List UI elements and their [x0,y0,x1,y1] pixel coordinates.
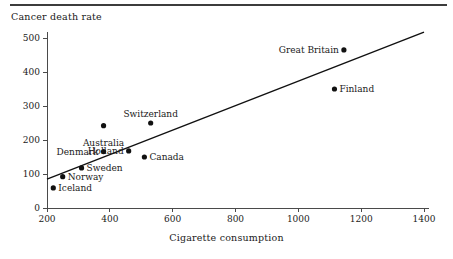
axes-group [43,32,429,212]
data-point [60,174,65,179]
point-label: Norway [68,172,105,182]
data-point [126,148,131,153]
data-point [142,154,147,159]
x-tick-label: 600 [164,214,181,224]
x-tick-label: 400 [101,214,118,224]
x-tick-label: 1200 [350,214,373,224]
point-label: Iceland [58,183,92,193]
y-tick-label: 100 [23,169,40,179]
x-tick-label: 1000 [287,214,310,224]
data-points-group: IcelandNorwaySwedenDenmarkAustraliaHolla… [51,45,375,193]
y-tick-label: 300 [23,101,40,111]
y-tick-label: 500 [23,33,40,43]
regression-line [47,32,424,179]
y-tick-label: 400 [23,67,40,77]
data-point [332,86,337,91]
y-tick-label: 200 [23,135,40,145]
point-label: Finland [339,84,374,94]
figure-container: Cancer death rate IcelandNorwaySwedenDen… [0,0,453,259]
data-point [341,47,346,52]
point-label: Holland [88,146,124,156]
data-point [79,165,84,170]
tick-labels-group: 0100200300400500200400600800100012001400 [23,33,436,224]
data-point [148,120,153,125]
x-tick-label: 1400 [413,214,436,224]
y-tick-label: 0 [34,203,40,213]
regression-line-group [47,32,424,179]
point-label: Canada [149,152,184,162]
scatter-plot: IcelandNorwaySwedenDenmarkAustraliaHolla… [0,0,453,259]
x-tick-label: 200 [38,214,55,224]
data-point [101,123,106,128]
point-label: Switzerland [123,109,178,119]
point-label: Sweden [87,163,123,173]
x-axis-title: Cigarette consumption [0,232,453,243]
x-tick-label: 800 [227,214,244,224]
point-label: Great Britain [279,45,339,55]
data-point [51,185,56,190]
